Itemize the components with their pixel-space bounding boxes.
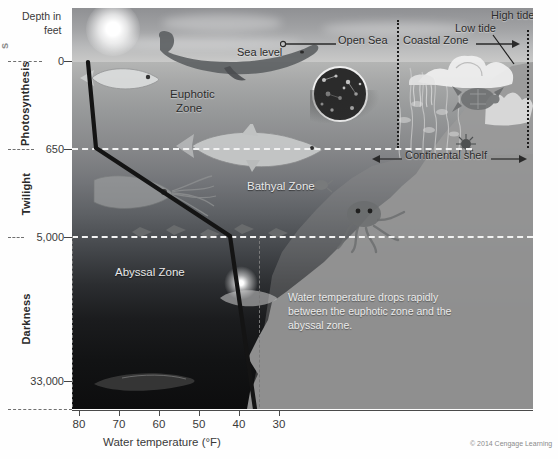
x-tick-mark-70: [119, 410, 120, 416]
ocean-zones-figure: s Depth in feet Photosynthesis Twilight …: [0, 0, 558, 459]
whale-illustration: [154, 24, 324, 94]
jellyfish-illustration: [406, 66, 438, 108]
x-tick-label-80: 80: [65, 418, 93, 430]
continental-shelf-leader-right: [491, 154, 527, 164]
depth-leader-5000: [8, 237, 24, 238]
abyssal-zone-boundary-box: [72, 236, 260, 409]
y-axis-title-line2: feet: [44, 24, 62, 36]
open-sea-leader-arrow: [280, 39, 336, 49]
depth-tick-mark-0: [64, 61, 72, 62]
label-euphotic-zone-line2: Zone: [176, 102, 202, 114]
x-tick-mark-80: [79, 410, 80, 416]
label-high-tide: High tide: [491, 9, 533, 21]
y-axis-title-line1: Depth in: [22, 10, 61, 22]
label-low-tide: Low tide: [455, 22, 496, 34]
x-tick-label-30: 30: [265, 418, 293, 430]
label-continental-shelf: Continental shelf: [405, 149, 487, 161]
light-zone-twilight: Twilight: [20, 164, 32, 224]
depth-tick-mark-5000: [64, 237, 72, 238]
light-zone-darkness: Darkness: [20, 287, 32, 351]
light-zone-photosynthesis: Photosynthesis: [19, 66, 31, 146]
x-tick-label-40: 40: [225, 418, 253, 430]
label-coastal-zone: Coastal Zone: [403, 34, 468, 46]
copyright-notice: © 2014 Cengage Learning: [470, 440, 552, 447]
continental-shelf-leader-left: [372, 154, 402, 164]
x-tick-mark-60: [159, 410, 160, 416]
edge-text-fragment: s: [0, 43, 10, 49]
depth-tick-mark-650: [64, 149, 72, 150]
x-tick-mark-40: [239, 410, 240, 416]
open-sea-coastal-divider: [397, 20, 399, 148]
depth-leader-0: [8, 61, 42, 62]
depth-tick-label-33000: 33,000: [8, 375, 64, 387]
sea-turtle-illustration: [450, 82, 506, 116]
temperature-annotation: Water temperature drops rapidly between …: [288, 290, 451, 332]
x-tick-label-50: 50: [185, 418, 213, 430]
annotation-line-3: abyssal zone.: [288, 318, 451, 332]
squid-illustration: [90, 166, 220, 222]
x-tick-mark-50: [199, 410, 200, 416]
label-open-sea: Open Sea: [338, 34, 388, 46]
annotation-line-1: Water temperature drops rapidly: [288, 290, 451, 304]
x-axis-title: Water temperature (°F): [103, 436, 221, 448]
ocean-cross-section-illustration: Sea level Open Sea Coastal Zone Low tide…: [72, 8, 533, 409]
depth-axis-base-leader: [8, 409, 72, 410]
annotation-line-2: between the euphotic zone and the: [288, 304, 451, 318]
marine-snow-plume: [310, 90, 380, 124]
label-bathyal-zone: Bathyal Zone: [247, 180, 315, 192]
label-abyssal-zone: Abyssal Zone: [115, 266, 185, 278]
depth-tick-mark-33000: [64, 381, 72, 382]
x-tick-mark-30: [279, 410, 280, 416]
label-euphotic-zone-line1: Euphotic: [170, 88, 215, 100]
label-sea-level: Sea level: [237, 46, 282, 58]
octopus-illustration: [336, 198, 406, 254]
x-tick-label-60: 60: [145, 418, 173, 430]
coastal-zone-outer-divider: [527, 30, 529, 148]
x-tick-label-70: 70: [105, 418, 133, 430]
low-tide-leader: [492, 34, 516, 66]
fish-illustration: [78, 64, 168, 94]
x-axis-line: [72, 410, 533, 411]
depth-leader-650: [8, 149, 34, 150]
